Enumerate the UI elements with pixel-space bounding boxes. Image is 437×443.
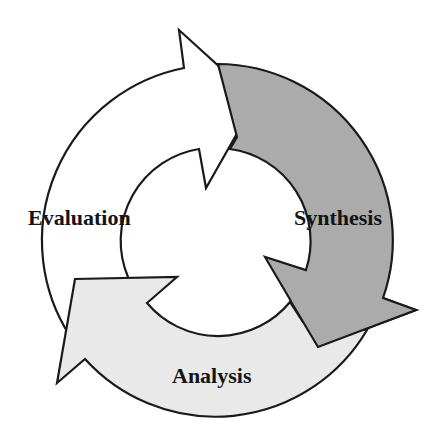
cycle-diagram: Evaluation Synthesis Analysis: [0, 0, 437, 443]
label-analysis: Analysis: [172, 363, 252, 388]
label-evaluation: Evaluation: [28, 205, 131, 230]
label-synthesis: Synthesis: [294, 205, 382, 230]
